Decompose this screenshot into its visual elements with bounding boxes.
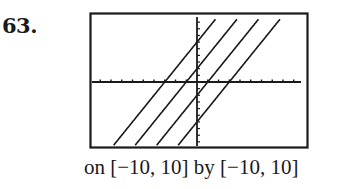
window-caption: on [−10, 10] by [−10, 10] — [84, 155, 324, 180]
graph-frame — [91, 14, 308, 148]
